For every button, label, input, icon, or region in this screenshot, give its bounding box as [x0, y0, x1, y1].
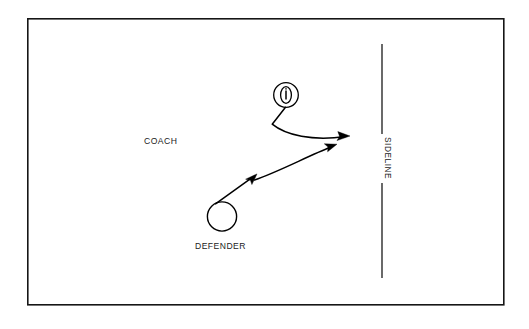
diagram-svg: SIDELINE COACH DEFENDER [0, 0, 529, 329]
coach-label: COACH [144, 136, 177, 146]
sideline-label: SIDELINE [383, 137, 393, 179]
defender-label: DEFENDER [195, 241, 246, 251]
field-boundary-frame [28, 19, 504, 305]
play-diagram-canvas: SIDELINE COACH DEFENDER [0, 0, 529, 329]
defender-circle-icon [207, 202, 236, 231]
coach-marker [274, 83, 299, 108]
